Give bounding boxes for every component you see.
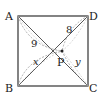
line-pa — [18, 16, 62, 51]
point-p — [61, 50, 64, 53]
label-c: C — [89, 82, 97, 95]
label-p: P — [57, 56, 65, 69]
length-pa: 9 — [31, 38, 37, 49]
square-diagram: A B C D P 9 8 x y — [0, 0, 101, 98]
line-pb — [18, 51, 62, 86]
length-pd: 8 — [66, 24, 72, 35]
label-a: A — [4, 10, 14, 23]
arc-pb — [18, 51, 62, 86]
arc-pa — [18, 16, 62, 51]
label-d: D — [89, 10, 98, 23]
label-b: B — [5, 82, 13, 95]
length-pc: y — [74, 56, 81, 67]
length-pb: x — [33, 56, 39, 67]
